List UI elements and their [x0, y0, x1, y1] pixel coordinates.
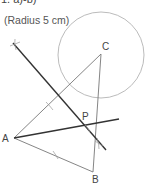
side-cb [93, 54, 101, 172]
angle-bisector [14, 119, 119, 138]
label-c: C [102, 41, 109, 52]
geometry-diagram: A B C P [0, 0, 145, 184]
label-b: B [92, 174, 99, 184]
label-p: P [82, 111, 89, 122]
side-ab [14, 138, 93, 172]
perpendicular-bisector [13, 43, 106, 150]
label-a: A [2, 133, 9, 144]
construction-marks [10, 39, 103, 159]
